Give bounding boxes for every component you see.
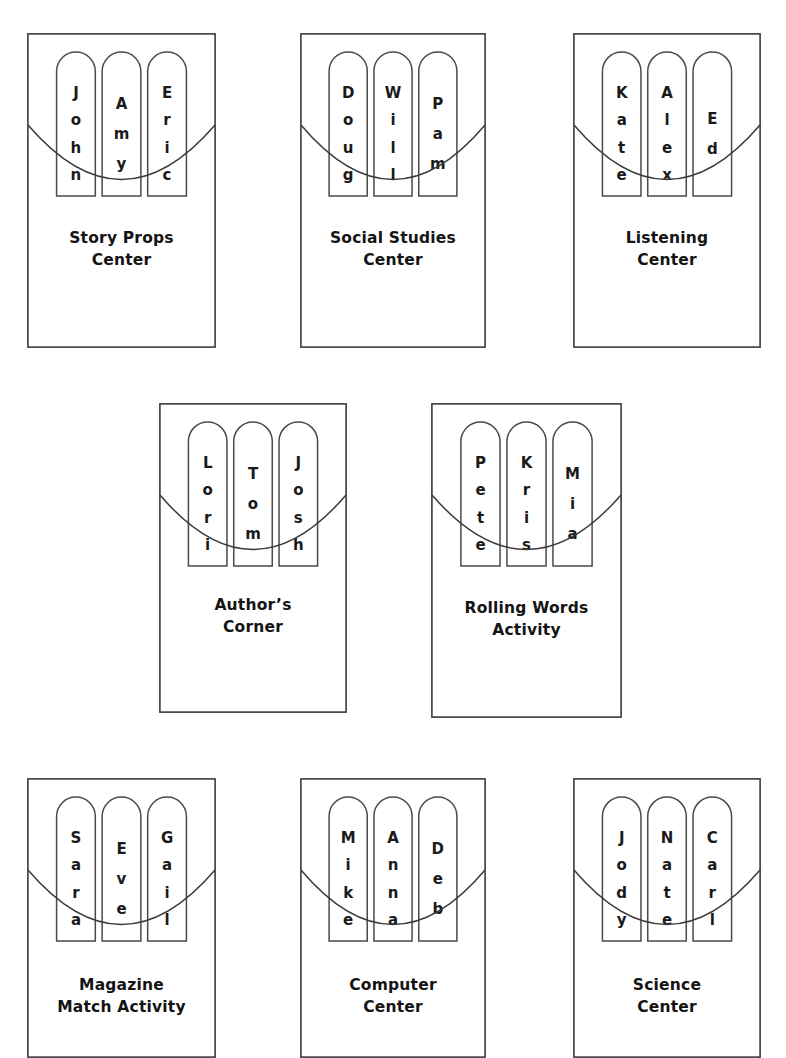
pocket-card-rolling-words-activity[interactable]: PeteKrisMiaRolling Words Activity — [431, 403, 622, 718]
pocket-card-social-studies-center[interactable]: DougWillPamSocial Studies Center — [300, 33, 486, 348]
craft-stick-group: SaraEveGail — [57, 797, 187, 941]
craft-stick-group: LoriTomJosh — [188, 422, 317, 566]
pocket-card-story-props-center[interactable]: JohnAmyEricStory Props Center — [27, 33, 216, 348]
scan-artifact-speck — [132, 0, 146, 7]
stick-name-deb: Deb — [432, 840, 444, 918]
pocket-card-science-center[interactable]: JodyNateCarlScience Center — [573, 778, 761, 1058]
stick-name-eve: Eve — [116, 840, 126, 918]
craft-stick-group: PeteKrisMia — [461, 422, 592, 566]
pocket-card-computer-center[interactable]: MikeAnnaDebComputer Center — [300, 778, 486, 1058]
craft-stick-group: JohnAmyEric — [57, 52, 187, 196]
pocket-card-magazine-match-activity[interactable]: SaraEveGailMagazine Match Activity — [27, 778, 216, 1058]
pocket-card-authors-corner[interactable]: LoriTomJoshAuthor’s Corner — [159, 403, 347, 713]
craft-stick-amy[interactable] — [102, 52, 141, 196]
craft-stick-group: MikeAnnaDeb — [329, 797, 457, 941]
pocket-card-sheet: JohnAmyEricStory Props CenterDougWillPam… — [0, 0, 786, 1058]
craft-stick-mia[interactable] — [553, 422, 592, 566]
craft-stick-deb[interactable] — [419, 797, 457, 941]
craft-stick-group: DougWillPam — [329, 52, 457, 196]
craft-stick-group: JodyNateCarl — [602, 797, 731, 941]
craft-stick-pam[interactable] — [419, 52, 457, 196]
craft-stick-group: KateAlexEd — [602, 52, 731, 196]
pocket-card-listening-center[interactable]: KateAlexEdListening Center — [573, 33, 761, 348]
craft-stick-eve[interactable] — [102, 797, 141, 941]
craft-stick-tom[interactable] — [234, 422, 273, 566]
